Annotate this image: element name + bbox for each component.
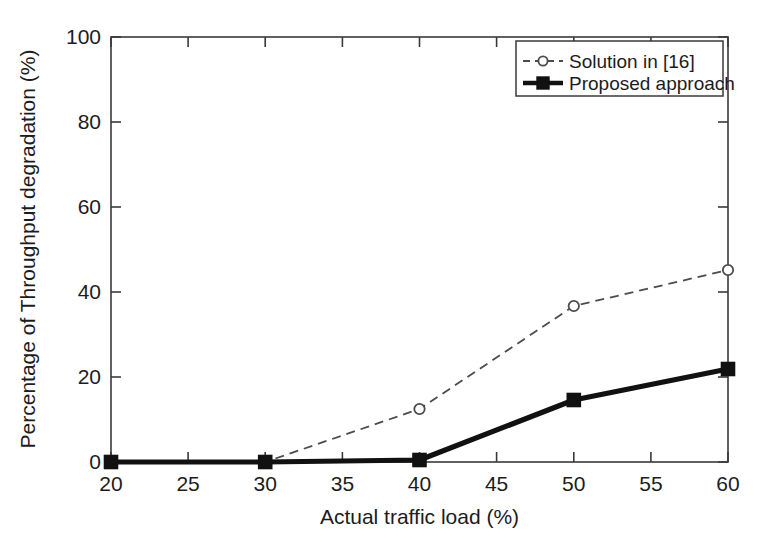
x-tick-label: 40 <box>408 472 431 495</box>
x-tick-label: 60 <box>716 472 739 495</box>
y-tick-labels: 0 20 40 60 80 100 <box>66 25 101 473</box>
chart-figure: 20 25 30 35 40 45 50 55 60 0 20 40 60 80… <box>0 0 774 547</box>
line-chart: 20 25 30 35 40 45 50 55 60 0 20 40 60 80… <box>0 0 774 547</box>
x-tick-label: 50 <box>562 472 585 495</box>
y-axis-ticks <box>111 37 728 462</box>
data-point-marker <box>723 265 733 275</box>
series-line-dashed <box>111 270 728 462</box>
y-tick-label: 80 <box>78 110 101 133</box>
series-line-solid <box>111 369 728 462</box>
x-tick-label: 45 <box>485 472 508 495</box>
y-tick-label: 20 <box>78 365 101 388</box>
plot-frame <box>111 37 728 462</box>
x-tick-labels: 20 25 30 35 40 45 50 55 60 <box>99 472 739 495</box>
x-tick-label: 25 <box>176 472 199 495</box>
y-tick-label: 40 <box>78 280 101 303</box>
x-tick-label: 35 <box>331 472 354 495</box>
legend-label: Proposed approach <box>569 73 735 94</box>
data-point-marker <box>567 394 580 407</box>
data-point-marker <box>569 301 579 311</box>
x-tick-label: 20 <box>99 472 122 495</box>
y-tick-label: 100 <box>66 25 101 48</box>
legend-marker-square-icon <box>537 77 549 89</box>
x-tick-label: 55 <box>639 472 662 495</box>
y-axis-title: Percentage of Throughput degradation (%) <box>16 50 39 449</box>
data-point-marker <box>414 404 424 414</box>
series-solution-in-16 <box>106 265 733 467</box>
legend-marker-circle-icon <box>538 56 547 65</box>
data-point-marker <box>259 456 272 469</box>
y-tick-label: 60 <box>78 195 101 218</box>
data-point-marker <box>722 363 735 376</box>
y-tick-label: 0 <box>89 450 101 473</box>
x-tick-label: 30 <box>254 472 277 495</box>
x-axis-ticks <box>111 37 728 462</box>
chart-legend: Solution in [16] Proposed approach <box>516 41 735 96</box>
legend-label: Solution in [16] <box>569 51 695 72</box>
data-point-marker <box>105 456 118 469</box>
data-point-marker <box>413 454 426 467</box>
x-axis-title: Actual traffic load (%) <box>320 505 519 528</box>
